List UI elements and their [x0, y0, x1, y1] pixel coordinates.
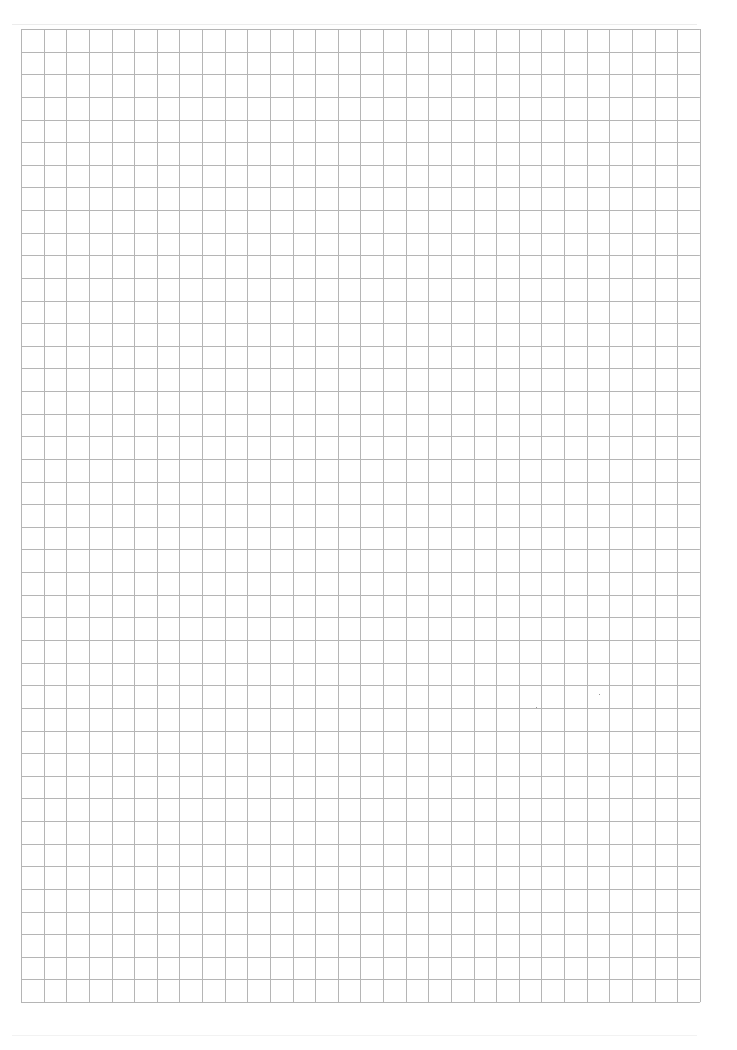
square-grid: [21, 29, 701, 1004]
graph-paper-sheet: [0, 0, 737, 1050]
scan-edge-bottom: [12, 1035, 697, 1036]
grid-svg: [21, 29, 701, 1004]
scan-edge-top: [12, 24, 697, 25]
scan-speck: [536, 707, 537, 708]
scan-speck: [599, 694, 600, 695]
